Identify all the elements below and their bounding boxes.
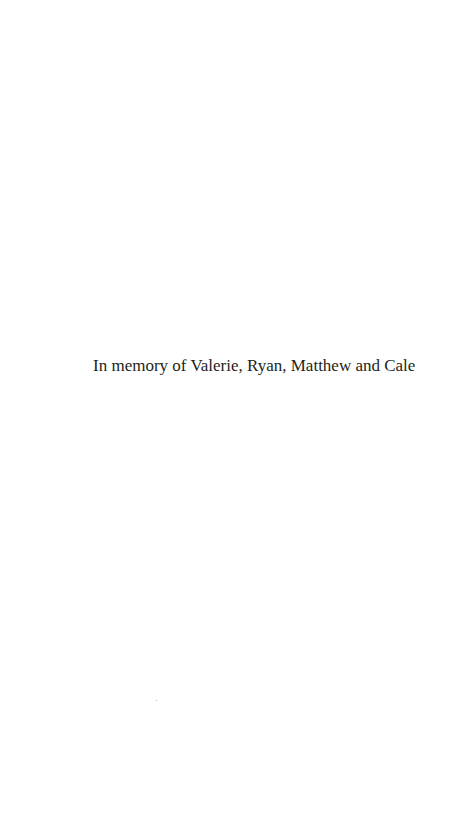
scan-artifact-dot bbox=[156, 700, 157, 701]
dedication-text: In memory of Valerie, Ryan, Matthew and … bbox=[93, 355, 399, 377]
book-page: In memory of Valerie, Ryan, Matthew and … bbox=[0, 0, 464, 813]
